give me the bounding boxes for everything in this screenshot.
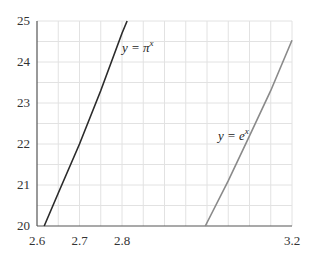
x-tick-label: 2.7 [71,233,88,248]
x-tick-labels: 2.62.72.83.2 [29,233,300,248]
y-tick-label: 21 [17,177,30,192]
x-tick-label: 2.8 [114,233,130,248]
x-tick-label: 3.2 [284,233,300,248]
y-tick-labels: 202122232425 [17,13,31,233]
e-curve-label: y = ex [216,126,249,143]
x-tick-label: 2.6 [29,233,46,248]
y-tick-label: 20 [17,218,30,233]
y-tick-label: 22 [17,136,30,151]
y-tick-label: 23 [17,95,30,110]
y-tick-label: 25 [17,13,30,28]
y-tick-label: 24 [17,54,31,69]
grid-lines [37,21,292,226]
chart: 2.62.72.83.2 202122232425 y = πx y = ex [0,0,311,260]
pi-curve-label: y = πx [120,38,154,55]
